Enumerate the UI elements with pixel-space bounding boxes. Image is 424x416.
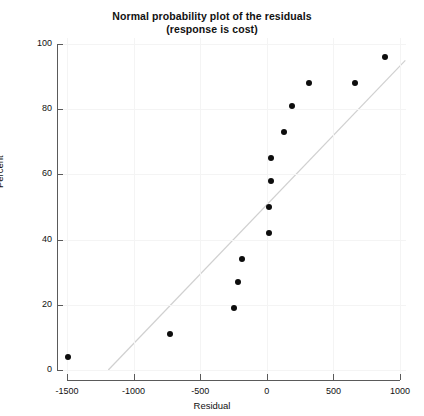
chart-subtitle: (response is cost) — [0, 23, 424, 36]
x-axis-tick-label: 0 — [264, 386, 269, 396]
reference-line — [108, 60, 405, 370]
gridline-horizontal — [61, 240, 406, 241]
x-axis-tick-label: -1500 — [55, 386, 78, 396]
y-axis-tick-label: 0 — [24, 364, 52, 374]
data-point — [352, 80, 358, 86]
x-axis-line — [67, 380, 400, 381]
x-axis-tick — [400, 374, 401, 380]
chart-figure: Normal probability plot of the residuals… — [0, 0, 424, 416]
x-axis-tick — [267, 374, 268, 380]
y-axis-tick — [57, 44, 63, 45]
y-axis-tick — [57, 305, 63, 306]
gridline-horizontal — [61, 109, 406, 110]
x-axis-tick — [67, 374, 68, 380]
gridline-horizontal — [61, 174, 406, 175]
data-point — [289, 103, 295, 109]
data-point — [65, 354, 71, 360]
y-axis-line — [57, 44, 58, 370]
plot-canvas — [67, 44, 400, 370]
y-axis-tick — [57, 174, 63, 175]
x-axis-tick — [200, 374, 201, 380]
gridline-vertical — [400, 38, 401, 376]
y-axis-tick-label: 20 — [24, 299, 52, 309]
y-axis-tick-label: 40 — [24, 234, 52, 244]
y-axis-tick-label: 100 — [24, 38, 52, 48]
chart-title-block: Normal probability plot of the residuals… — [0, 10, 424, 36]
x-axis-tick — [333, 374, 334, 380]
y-axis-tick-label: 80 — [24, 103, 52, 113]
y-axis-tick — [57, 109, 63, 110]
y-axis-tick — [57, 240, 63, 241]
plot-area — [67, 44, 400, 370]
gridline-vertical — [333, 38, 334, 376]
x-axis-tick-label: 500 — [326, 386, 341, 396]
x-axis-label: Residual — [0, 400, 424, 411]
x-axis-tick — [134, 374, 135, 380]
x-axis-tick-label: -500 — [191, 386, 209, 396]
page-title: Normal probability plot of the residuals — [0, 10, 424, 23]
x-axis-tick-label: -1000 — [122, 386, 145, 396]
data-point — [231, 305, 237, 311]
gridline-horizontal — [61, 44, 406, 45]
data-point — [268, 178, 274, 184]
gridline-vertical — [134, 38, 135, 376]
data-point — [266, 230, 272, 236]
gridline-vertical — [200, 38, 201, 376]
gridline-vertical — [67, 38, 68, 376]
y-axis-tick — [57, 370, 63, 371]
gridline-horizontal — [61, 370, 406, 371]
x-axis-tick-label: 1000 — [390, 386, 410, 396]
y-axis-tick-label: 60 — [24, 168, 52, 178]
y-axis-label: Percent — [0, 155, 5, 188]
